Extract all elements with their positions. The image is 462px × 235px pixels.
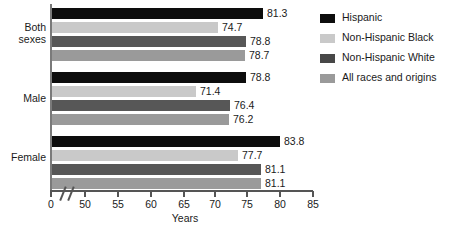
legend: Hispanic Non-Hispanic Black Non-Hispanic… bbox=[320, 10, 462, 90]
legend-label-hispanic: Hispanic bbox=[342, 11, 382, 24]
legend-item-all-races-and-origins: All races and origins bbox=[320, 70, 462, 86]
bar-value-male-non-hispanic-black: 71.4 bbox=[200, 86, 220, 97]
bar-value-female-hispanic: 83.8 bbox=[284, 136, 304, 147]
x-tick-label-80: 80 bbox=[265, 198, 295, 210]
legend-swatch-icon-non-hispanic-white bbox=[320, 54, 335, 63]
legend-label-all-races-and-origins: All races and origins bbox=[342, 71, 437, 84]
legend-swatch-icon-all-races-and-origins bbox=[320, 74, 335, 83]
legend-label-non-hispanic-black: Non-Hispanic Black bbox=[342, 31, 434, 44]
bar-value-female-non-hispanic-black: 77.7 bbox=[242, 150, 262, 161]
group-label-both-sexes: Both sexes bbox=[0, 22, 46, 45]
bar-value-male-non-hispanic-white: 76.4 bbox=[234, 100, 254, 111]
x-tick-60 bbox=[150, 191, 152, 197]
bar-value-male-hispanic: 78.8 bbox=[250, 72, 270, 83]
bar-male-non-hispanic-black bbox=[51, 86, 196, 97]
x-tick-label-75: 75 bbox=[232, 198, 262, 210]
legend-item-hispanic: Hispanic bbox=[320, 10, 462, 26]
x-tick-label-70: 70 bbox=[200, 198, 230, 210]
x-tick-label-50: 50 bbox=[70, 198, 100, 210]
bar-female-hispanic bbox=[51, 136, 280, 147]
life-expectancy-bar-chart: Both sexes Male Female 81.3 74.7 78.8 78… bbox=[0, 0, 462, 235]
bar-female-non-hispanic-black bbox=[51, 150, 238, 161]
bar-male-hispanic bbox=[51, 72, 246, 83]
bar-female-non-hispanic-white bbox=[51, 164, 261, 175]
group-label-female: Female bbox=[0, 152, 46, 164]
bar-both-sexes-non-hispanic-black bbox=[51, 22, 218, 33]
x-tick-70 bbox=[214, 191, 216, 197]
plot-area: Both sexes Male Female 81.3 74.7 78.8 78… bbox=[0, 0, 320, 200]
legend-item-non-hispanic-black: Non-Hispanic Black bbox=[320, 30, 462, 46]
legend-label-non-hispanic-white: Non-Hispanic White bbox=[342, 51, 435, 64]
x-tick-label-60: 60 bbox=[136, 198, 166, 210]
x-tick-75 bbox=[246, 191, 248, 197]
x-tick-50 bbox=[84, 191, 86, 197]
bar-value-female-all-races: 81.1 bbox=[265, 178, 285, 189]
bar-male-all-races bbox=[51, 114, 229, 125]
bar-value-both-sexes-non-hispanic-white: 78.8 bbox=[250, 36, 270, 47]
x-axis-line bbox=[50, 190, 313, 192]
y-axis-line bbox=[50, 4, 52, 190]
legend-item-non-hispanic-white: Non-Hispanic White bbox=[320, 50, 462, 66]
bar-female-all-races bbox=[51, 178, 261, 189]
x-tick-55 bbox=[117, 191, 119, 197]
bar-value-female-non-hispanic-white: 81.1 bbox=[265, 164, 285, 175]
bar-both-sexes-all-races bbox=[51, 50, 245, 61]
bar-both-sexes-hispanic bbox=[51, 8, 263, 19]
bar-male-non-hispanic-white bbox=[51, 100, 230, 111]
legend-swatch-icon-hispanic bbox=[320, 14, 335, 23]
bar-value-both-sexes-hispanic: 81.3 bbox=[267, 8, 287, 19]
legend-swatch-icon-non-hispanic-black bbox=[320, 34, 335, 43]
bar-value-both-sexes-non-hispanic-black: 74.7 bbox=[222, 22, 242, 33]
x-tick-label-65: 65 bbox=[169, 198, 199, 210]
x-tick-80 bbox=[279, 191, 281, 197]
x-tick-label-0: 0 bbox=[36, 198, 66, 210]
bar-value-both-sexes-all-races: 78.7 bbox=[249, 50, 269, 61]
x-tick-0 bbox=[50, 191, 52, 197]
x-axis-title: Years bbox=[150, 212, 220, 224]
bar-both-sexes-non-hispanic-white bbox=[51, 36, 246, 47]
x-tick-85 bbox=[312, 191, 314, 197]
x-tick-65 bbox=[183, 191, 185, 197]
x-tick-label-55: 55 bbox=[103, 198, 133, 210]
x-tick-label-85: 85 bbox=[298, 198, 328, 210]
bar-value-male-all-races: 76.2 bbox=[233, 114, 253, 125]
group-label-male: Male bbox=[0, 93, 46, 105]
